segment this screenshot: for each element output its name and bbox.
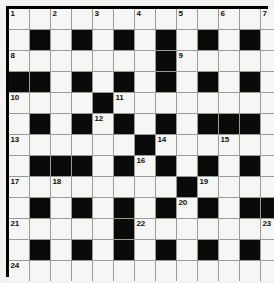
- crossword-open-cell[interactable]: 20: [177, 198, 197, 218]
- crossword-open-cell[interactable]: [177, 240, 197, 260]
- crossword-open-cell[interactable]: [156, 93, 176, 113]
- crossword-open-cell[interactable]: 19: [198, 177, 218, 197]
- crossword-open-cell[interactable]: [219, 219, 239, 239]
- crossword-open-cell[interactable]: [240, 219, 260, 239]
- crossword-open-cell[interactable]: [114, 9, 134, 29]
- crossword-open-cell[interactable]: [261, 135, 274, 155]
- crossword-open-cell[interactable]: [30, 135, 50, 155]
- crossword-open-cell[interactable]: 12: [93, 114, 113, 134]
- crossword-open-cell[interactable]: [261, 156, 274, 176]
- crossword-open-cell[interactable]: [177, 72, 197, 92]
- crossword-open-cell[interactable]: [219, 51, 239, 71]
- crossword-open-cell[interactable]: 4: [135, 9, 155, 29]
- crossword-open-cell[interactable]: [261, 261, 274, 281]
- crossword-open-cell[interactable]: 22: [135, 219, 155, 239]
- crossword-open-cell[interactable]: 11: [114, 93, 134, 113]
- crossword-open-cell[interactable]: [177, 219, 197, 239]
- crossword-open-cell[interactable]: [177, 114, 197, 134]
- crossword-open-cell[interactable]: [219, 156, 239, 176]
- crossword-open-cell[interactable]: [72, 93, 92, 113]
- crossword-open-cell[interactable]: [9, 240, 29, 260]
- crossword-open-cell[interactable]: 17: [9, 177, 29, 197]
- crossword-open-cell[interactable]: [114, 261, 134, 281]
- crossword-open-cell[interactable]: [261, 93, 274, 113]
- crossword-open-cell[interactable]: [177, 261, 197, 281]
- crossword-open-cell[interactable]: [219, 198, 239, 218]
- crossword-open-cell[interactable]: [9, 114, 29, 134]
- crossword-open-cell[interactable]: [30, 93, 50, 113]
- crossword-open-cell[interactable]: [135, 72, 155, 92]
- crossword-open-cell[interactable]: [156, 219, 176, 239]
- crossword-open-cell[interactable]: [51, 114, 71, 134]
- crossword-open-cell[interactable]: [219, 177, 239, 197]
- crossword-open-cell[interactable]: [198, 93, 218, 113]
- crossword-open-cell[interactable]: 21: [9, 219, 29, 239]
- crossword-open-cell[interactable]: [177, 30, 197, 50]
- crossword-open-cell[interactable]: 6: [219, 9, 239, 29]
- crossword-open-cell[interactable]: [51, 219, 71, 239]
- crossword-open-cell[interactable]: 1: [9, 9, 29, 29]
- crossword-open-cell[interactable]: [219, 261, 239, 281]
- crossword-open-cell[interactable]: [93, 30, 113, 50]
- crossword-open-cell[interactable]: [51, 72, 71, 92]
- crossword-open-cell[interactable]: [114, 135, 134, 155]
- crossword-open-cell[interactable]: [72, 177, 92, 197]
- crossword-open-cell[interactable]: [135, 51, 155, 71]
- crossword-open-cell[interactable]: [93, 72, 113, 92]
- crossword-open-cell[interactable]: [240, 9, 260, 29]
- crossword-open-cell[interactable]: [72, 135, 92, 155]
- crossword-open-cell[interactable]: [135, 198, 155, 218]
- crossword-open-cell[interactable]: 16: [135, 156, 155, 176]
- crossword-open-cell[interactable]: [177, 156, 197, 176]
- crossword-open-cell[interactable]: [93, 51, 113, 71]
- crossword-open-cell[interactable]: [51, 198, 71, 218]
- crossword-open-cell[interactable]: [93, 261, 113, 281]
- crossword-open-cell[interactable]: [240, 177, 260, 197]
- crossword-open-cell[interactable]: 13: [9, 135, 29, 155]
- crossword-open-cell[interactable]: [261, 72, 274, 92]
- crossword-open-cell[interactable]: 18: [51, 177, 71, 197]
- crossword-open-cell[interactable]: [261, 240, 274, 260]
- crossword-open-cell[interactable]: [114, 51, 134, 71]
- crossword-open-cell[interactable]: [51, 93, 71, 113]
- crossword-open-cell[interactable]: [51, 240, 71, 260]
- crossword-open-cell[interactable]: [198, 9, 218, 29]
- crossword-open-cell[interactable]: [261, 30, 274, 50]
- crossword-open-cell[interactable]: [156, 177, 176, 197]
- crossword-open-cell[interactable]: [9, 156, 29, 176]
- crossword-open-cell[interactable]: [135, 93, 155, 113]
- crossword-open-cell[interactable]: 9: [177, 51, 197, 71]
- crossword-open-cell[interactable]: [219, 72, 239, 92]
- crossword-open-cell[interactable]: [72, 261, 92, 281]
- crossword-open-cell[interactable]: [93, 240, 113, 260]
- crossword-open-cell[interactable]: [261, 114, 274, 134]
- crossword-open-cell[interactable]: [156, 9, 176, 29]
- crossword-open-cell[interactable]: 5: [177, 9, 197, 29]
- crossword-open-cell[interactable]: 24: [9, 261, 29, 281]
- crossword-open-cell[interactable]: [135, 240, 155, 260]
- crossword-open-cell[interactable]: [261, 51, 274, 71]
- crossword-open-cell[interactable]: [261, 177, 274, 197]
- crossword-open-cell[interactable]: [93, 135, 113, 155]
- crossword-open-cell[interactable]: [93, 219, 113, 239]
- crossword-open-cell[interactable]: [135, 261, 155, 281]
- crossword-open-cell[interactable]: 15: [219, 135, 239, 155]
- crossword-open-cell[interactable]: [240, 135, 260, 155]
- crossword-open-cell[interactable]: 10: [9, 93, 29, 113]
- crossword-open-cell[interactable]: 2: [51, 9, 71, 29]
- crossword-open-cell[interactable]: [30, 51, 50, 71]
- crossword-open-cell[interactable]: 8: [9, 51, 29, 71]
- crossword-open-cell[interactable]: [30, 261, 50, 281]
- crossword-open-cell[interactable]: [51, 261, 71, 281]
- crossword-open-cell[interactable]: [30, 177, 50, 197]
- crossword-open-cell[interactable]: [240, 51, 260, 71]
- crossword-open-cell[interactable]: [72, 9, 92, 29]
- crossword-open-cell[interactable]: [156, 261, 176, 281]
- crossword-open-cell[interactable]: [93, 177, 113, 197]
- crossword-open-cell[interactable]: [51, 135, 71, 155]
- crossword-open-cell[interactable]: [114, 177, 134, 197]
- crossword-open-cell[interactable]: [198, 51, 218, 71]
- crossword-open-cell[interactable]: 23: [261, 219, 274, 239]
- crossword-open-cell[interactable]: [93, 156, 113, 176]
- crossword-open-cell[interactable]: [240, 93, 260, 113]
